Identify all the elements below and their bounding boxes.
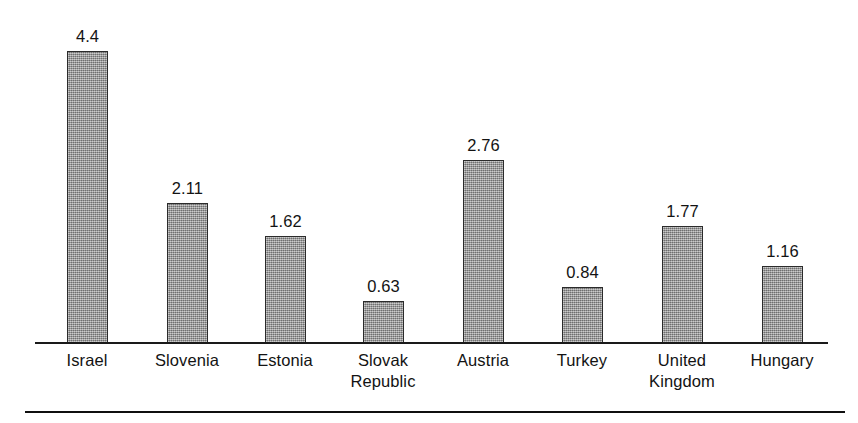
category-label-line: Israel xyxy=(31,350,143,371)
bar-rect[interactable] xyxy=(363,301,404,343)
category-label-turkey: Turkey xyxy=(526,350,638,371)
bar-value-label: 0.63 xyxy=(333,277,434,296)
bar-chart-figure: 4.4 2.11 1.62 0.63 2.76 0.84 1.77 xyxy=(0,0,858,423)
category-label-austria: Austria xyxy=(427,350,539,371)
category-label-line: United xyxy=(626,350,738,371)
bar-value-label: 1.16 xyxy=(732,242,833,261)
bar-value-label: 1.77 xyxy=(632,202,733,221)
category-label-united-kingdom: United Kingdom xyxy=(626,350,738,392)
bar-group: 0.84 xyxy=(562,0,603,343)
category-label-line: Kingdom xyxy=(626,371,738,392)
bar-rect[interactable] xyxy=(463,160,504,343)
category-axis: Israel Slovenia Estonia Slovak Republic … xyxy=(0,350,858,404)
bar-group: 1.77 xyxy=(662,0,703,343)
bar-group: 2.76 xyxy=(463,0,504,343)
category-label-line: Slovak xyxy=(327,350,439,371)
bar-value-label: 2.76 xyxy=(433,136,534,155)
category-label-hungary: Hungary xyxy=(726,350,838,371)
category-label-line: Slovenia xyxy=(131,350,243,371)
bottom-rule-divider xyxy=(25,411,845,413)
category-label-line: Austria xyxy=(427,350,539,371)
category-label-line: Turkey xyxy=(526,350,638,371)
bar-group: 4.4 xyxy=(67,0,108,343)
bar-rect[interactable] xyxy=(762,266,803,343)
bar-rect[interactable] xyxy=(167,203,208,343)
bar-rect[interactable] xyxy=(265,236,306,343)
bar-value-label: 2.11 xyxy=(137,179,238,198)
bar-group: 2.11 xyxy=(167,0,208,343)
category-label-estonia: Estonia xyxy=(229,350,341,371)
category-label-line: Estonia xyxy=(229,350,341,371)
bar-rect[interactable] xyxy=(662,226,703,343)
bar-group: 1.62 xyxy=(265,0,306,343)
bar-value-label: 4.4 xyxy=(37,27,138,46)
bar-group: 0.63 xyxy=(363,0,404,343)
bar-rect[interactable] xyxy=(67,51,108,343)
category-label-slovenia: Slovenia xyxy=(131,350,243,371)
category-label-line: Hungary xyxy=(726,350,838,371)
category-label-slovak-republic: Slovak Republic xyxy=(327,350,439,392)
category-label-israel: Israel xyxy=(31,350,143,371)
category-label-line: Republic xyxy=(327,371,439,392)
bar-rect[interactable] xyxy=(562,287,603,343)
bar-value-label: 1.62 xyxy=(235,212,336,231)
bar-group: 1.16 xyxy=(762,0,803,343)
plot-area: 4.4 2.11 1.62 0.63 2.76 0.84 1.77 xyxy=(0,0,858,343)
x-axis-line xyxy=(35,342,828,344)
bar-value-label: 0.84 xyxy=(532,263,633,282)
